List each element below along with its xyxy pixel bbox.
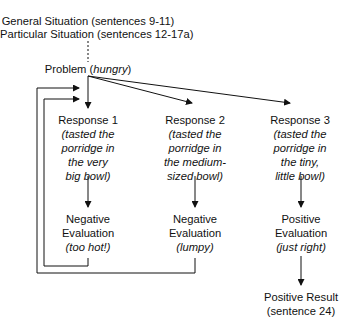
response-detail: (tasted the [257,127,343,141]
problem-close: ) [127,63,131,75]
response-detail: the tiny, [257,155,343,169]
response-detail: sized bowl) [155,169,235,183]
response-1: Response 1 (tasted the porridge in the v… [48,113,128,183]
evaluation-detail: (lumpy) [160,240,230,254]
response-2: Response 2 (tasted the porridge in the m… [155,113,235,183]
response-detail: porridge in [257,141,343,155]
evaluation-type: Positive [266,212,336,226]
response-detail: big bowl) [48,169,128,183]
response-detail: porridge in [48,141,128,155]
response-detail: the very [48,155,128,169]
response-detail: (tasted the [48,127,128,141]
arrow-problem-to-response-2 [88,76,192,103]
particular-situation: Particular Situation (sentences 12-17a) [0,27,176,41]
evaluation-1: Negative Evaluation (too hot!) [53,212,123,254]
evaluation-type: Negative [53,212,123,226]
response-detail: the medium- [155,155,235,169]
evaluation-3: Positive Evaluation (just right) [266,212,336,254]
response-title: Response 3 [257,113,343,127]
evaluation-type: Negative [160,212,230,226]
problem-detail: hungry [93,63,127,75]
response-3: Response 3 (tasted the porridge in the t… [257,113,343,183]
response-title: Response 1 [48,113,128,127]
evaluation-2: Negative Evaluation (lumpy) [160,212,230,254]
problem-node: Problem (hungry) [34,62,142,76]
evaluation-label: Evaluation [266,226,336,240]
problem-label: Problem ( [45,63,94,75]
evaluation-label: Evaluation [53,226,123,240]
arrow-problem-to-response-3 [88,76,290,103]
evaluation-detail: (just right) [266,240,336,254]
result-label: Positive Result [258,290,344,304]
response-title: Response 2 [155,113,235,127]
evaluation-label: Evaluation [160,226,230,240]
response-detail: (tasted the [155,127,235,141]
response-detail: little bowl) [257,169,343,183]
response-detail: porridge in [155,141,235,155]
positive-result: Positive Result (sentence 24) [258,290,344,318]
evaluation-detail: (too hot!) [53,240,123,254]
result-detail: (sentence 24) [258,304,344,318]
general-situation: General Situation (sentences 9-11) [0,14,176,28]
